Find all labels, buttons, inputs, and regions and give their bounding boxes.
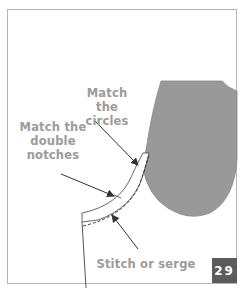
label-line: Match the	[74, 86, 140, 114]
label-line: Match the	[18, 120, 88, 134]
fabric-piece	[144, 81, 238, 216]
step-number-badge: 29	[212, 258, 237, 283]
bodice-edge	[82, 222, 86, 288]
label-stitch-or-serge: Stitch or serge	[96, 257, 196, 271]
label-line: double	[18, 134, 88, 148]
arrow-double-notches	[61, 174, 114, 196]
label-line: notches	[18, 148, 88, 162]
label-match-double-notches: Match the double notches	[18, 120, 88, 162]
binding-strip	[82, 153, 149, 222]
arrow-stitch	[112, 215, 138, 249]
